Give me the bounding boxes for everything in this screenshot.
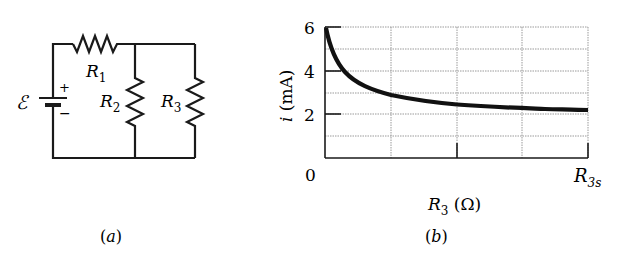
battery-plus-label: + — [59, 80, 70, 95]
figure: + − ℰ R1 R2 R3 (a) 6 4 2 0 R3s i (mA — [0, 0, 624, 263]
y-tick-4: 4 — [304, 62, 315, 82]
x-axis-label: R3 (Ω) — [427, 194, 481, 218]
battery-icon — [39, 98, 67, 105]
resistor-r1-icon — [73, 36, 135, 52]
y-axis-label: i (mA) — [276, 69, 296, 122]
circuit-diagram — [53, 36, 203, 158]
y-tick-6: 6 — [304, 18, 315, 38]
r3-label: R3 — [160, 91, 181, 115]
x-tick-0: 0 — [305, 165, 316, 185]
resistor-r3-icon — [187, 44, 203, 158]
battery-minus-label: − — [59, 105, 71, 121]
caption-b: (b) — [425, 227, 448, 246]
y-tick-2: 2 — [304, 105, 315, 125]
r2-label: R2 — [99, 91, 120, 115]
emf-label: ℰ — [16, 91, 30, 113]
resistor-r2-icon — [127, 44, 143, 158]
x-tick-r3s: R3s — [573, 165, 601, 190]
caption-a: (a) — [100, 227, 122, 246]
r1-label: R1 — [85, 61, 106, 85]
graph-gridlines — [325, 27, 588, 158]
